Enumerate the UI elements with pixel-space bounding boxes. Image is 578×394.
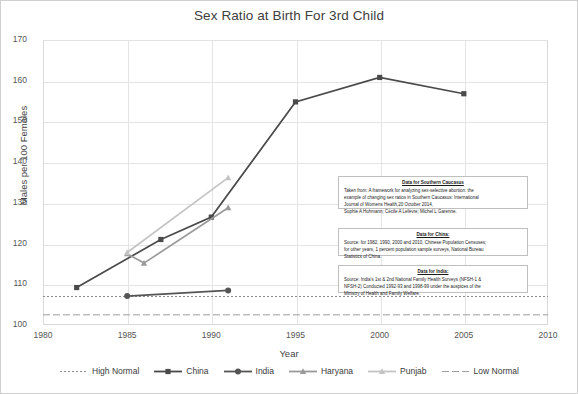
legend-swatch-icon [153, 367, 183, 376]
legend-item-china[interactable]: China [153, 366, 208, 376]
data-point [225, 205, 231, 211]
data-point [377, 75, 382, 80]
chart-legend: High NormalChinaIndiaHaryanaPunjabLow No… [0, 366, 578, 376]
x-tick-label: 2005 [444, 330, 484, 340]
legend-label: India [256, 366, 274, 376]
note-line: example of changing sex ratios in Southe… [344, 195, 522, 202]
legend-label: Low Normal [474, 366, 519, 376]
y-tick-label: 110 [0, 278, 27, 288]
y-tick-label: 140 [0, 156, 27, 166]
note-title-southern-caucasus: Data for Southern Caucasus [344, 180, 522, 187]
data-point [461, 91, 466, 96]
legend-label: High Normal [92, 366, 139, 376]
y-tick-label: 100 [0, 319, 27, 329]
note-line: Taken from: A framework for analyzing se… [344, 188, 522, 195]
y-tick-label: 170 [0, 34, 27, 44]
legend-swatch-icon [223, 367, 253, 376]
data-point [158, 237, 163, 242]
note-line: Sophie A Hohmann; Cécile A Lefèvre; Mich… [344, 209, 522, 216]
note-box-southern-caucasus: Data for Southern Caucasus Taken from: A… [338, 176, 528, 209]
series-haryana [124, 205, 231, 266]
y-tick-label: 130 [0, 197, 27, 207]
data-point [74, 285, 79, 290]
chart-container: Sex Ratio at Birth For 3rd Child Males p… [0, 0, 578, 394]
chart-title: Sex Ratio at Birth For 3rd Child [0, 8, 578, 23]
legend-swatch-icon [367, 367, 397, 376]
note-title-india: Data for India: [344, 269, 522, 276]
x-tick-label: 1995 [276, 330, 316, 340]
data-point [225, 287, 231, 293]
legend-item-high-normal[interactable]: High Normal [59, 366, 139, 376]
legend-swatch-icon [59, 367, 89, 376]
note-line: Source: for 1982, 1990, 2000 and 2010, C… [344, 240, 522, 247]
legend-label: Haryana [321, 366, 353, 376]
page-border-top [0, 0, 578, 1]
x-tick-label: 2010 [528, 330, 568, 340]
note-box-china: Data for China: Source: for 1982, 1990, … [338, 228, 528, 256]
legend-swatch-icon [441, 367, 471, 376]
note-line: Ministry of Health and Family Welfare. [344, 291, 522, 298]
x-tick-label: 1980 [23, 330, 63, 340]
x-tick-label: 2000 [360, 330, 400, 340]
note-line: Journal of Womens Health,20 October 2014… [344, 202, 522, 209]
data-point [225, 174, 231, 180]
y-tick-label: 120 [0, 238, 27, 248]
data-point [293, 99, 298, 104]
note-line: NFSH-2) Conducted 1992-93 and 1998-99 un… [344, 284, 522, 291]
x-tick-label: 1985 [107, 330, 147, 340]
note-line: Statistics of China. [344, 254, 522, 261]
x-tick-label: 1990 [191, 330, 231, 340]
series-punjab [124, 174, 231, 255]
y-tick-label: 160 [0, 75, 27, 85]
note-line: Source: India's 1st & 2nd National Famil… [344, 277, 522, 284]
legend-item-haryana[interactable]: Haryana [288, 366, 353, 376]
legend-item-india[interactable]: India [223, 366, 274, 376]
x-axis-title: Year [0, 348, 578, 359]
legend-swatch-icon [288, 367, 318, 376]
data-point [124, 293, 130, 299]
legend-label: Punjab [400, 366, 426, 376]
legend-item-low-normal[interactable]: Low Normal [441, 366, 519, 376]
legend-label: China [186, 366, 208, 376]
y-tick-label: 150 [0, 115, 27, 125]
series-india [124, 287, 231, 299]
note-line: for other years, 1 percent population sa… [344, 247, 522, 254]
legend-item-punjab[interactable]: Punjab [367, 366, 426, 376]
note-title-china: Data for China: [344, 232, 522, 239]
note-box-india: Data for India: Source: India's 1st & 2n… [338, 265, 528, 293]
